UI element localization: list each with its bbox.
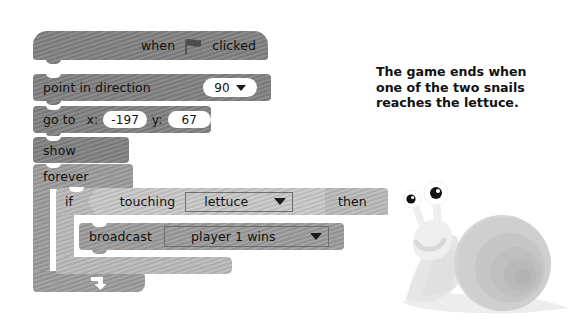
broadcast-message-dropdown[interactable]: player 1 wins — [164, 226, 329, 247]
snail-eye-left — [406, 194, 415, 203]
block-notch-top — [46, 73, 61, 78]
chevron-down-icon — [310, 233, 322, 240]
x-label: x: — [87, 112, 99, 127]
block-notch-top — [46, 136, 61, 141]
y-label: y: — [152, 112, 163, 127]
forever-label: forever — [43, 169, 89, 184]
snail-illustration — [392, 180, 582, 315]
green-flag-icon — [184, 38, 203, 54]
block-notch-top — [92, 222, 107, 227]
block-point-in-direction[interactable]: point in direction 90 — [33, 74, 271, 101]
hat-block-content: when clicked — [141, 38, 256, 54]
snail-eye-right — [430, 187, 442, 199]
clicked-label: clicked — [212, 38, 256, 53]
caption-line-3: reaches the lettuce. — [376, 95, 566, 111]
block-notch-top — [46, 105, 61, 110]
when-label: when — [141, 38, 175, 53]
forever-left-arm — [33, 189, 50, 271]
chevron-down-icon — [274, 198, 286, 205]
block-notch-bottom — [46, 59, 61, 64]
block-broadcast[interactable]: broadcast player 1 wins — [79, 223, 344, 250]
if-foot — [56, 257, 232, 274]
x-input[interactable]: -197 — [103, 111, 146, 128]
broadcast-label: broadcast — [89, 229, 152, 244]
touching-target-value: lettuce — [186, 194, 266, 209]
direction-value: 90 — [214, 81, 229, 95]
block-notch-top — [46, 163, 61, 168]
then-label: then — [338, 188, 367, 215]
caption-text: The game ends when one of the two snails… — [376, 64, 566, 111]
block-touching[interactable]: touching lettuce — [88, 188, 325, 215]
y-input[interactable]: 67 — [168, 111, 211, 128]
loop-arrow-icon — [88, 274, 110, 292]
if-label: if — [65, 194, 73, 209]
block-notch-top — [69, 187, 84, 192]
forever-header[interactable]: forever — [33, 164, 133, 189]
block-go-to-xy[interactable]: go to x: -197 y: 67 — [33, 106, 211, 133]
caption-line-2: one of the two snails — [376, 80, 566, 96]
touching-label: touching — [120, 194, 175, 209]
go-to-label: go to — [43, 112, 76, 127]
chevron-down-icon — [236, 85, 246, 91]
if-left-arm — [56, 215, 74, 257]
if-header[interactable]: if touching lettuce then — [56, 188, 388, 215]
block-when-flag-clicked[interactable]: when clicked — [33, 31, 268, 60]
scratch-script-canvas: when clicked point in direction 90 go to… — [0, 0, 585, 325]
broadcast-message-value: player 1 wins — [165, 229, 302, 244]
caption-line-1: The game ends when — [376, 64, 566, 80]
block-show[interactable]: show — [33, 137, 129, 163]
show-label: show — [43, 143, 76, 158]
point-in-direction-label: point in direction — [43, 80, 151, 95]
direction-dropdown-field[interactable]: 90 — [203, 78, 257, 97]
touching-target-dropdown[interactable]: lettuce — [185, 192, 293, 212]
